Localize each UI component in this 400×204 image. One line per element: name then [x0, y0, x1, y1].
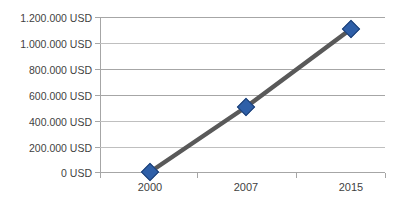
line-chart: ·· ···· ·· 1.200.000 USD 1.000.000 USD 8… — [0, 0, 400, 204]
x-axis-label-2000: 2000 — [120, 181, 180, 193]
series-line — [0, 0, 400, 204]
x-axis-label-2007: 2007 — [216, 181, 276, 193]
x-axis-label-2015: 2015 — [321, 181, 381, 193]
